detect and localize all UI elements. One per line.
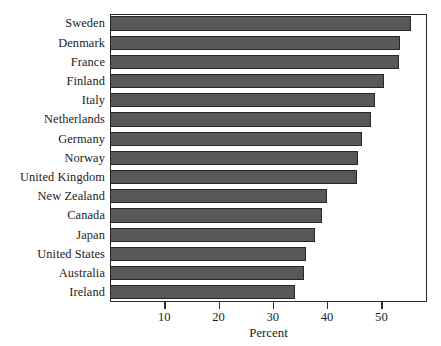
bar-france: [110, 55, 399, 69]
y-axis-label-netherlands: Netherlands: [0, 113, 105, 125]
y-axis-label-norway: Norway: [0, 152, 105, 164]
y-axis-label-sweden: Sweden: [0, 17, 105, 29]
x-tick-label-50: 50: [361, 310, 401, 324]
x-tick-label-40: 40: [307, 310, 347, 324]
y-axis-label-canada: Canada: [0, 209, 105, 221]
x-tick-20: [219, 302, 220, 309]
y-axis-label-finland: Finland: [0, 75, 105, 87]
x-tick-40: [327, 302, 328, 309]
bar-ireland: [110, 285, 295, 299]
bar-italy: [110, 93, 375, 107]
x-tick-label-20: 20: [199, 310, 239, 324]
bar-united-states: [110, 247, 306, 261]
x-tick-label-10: 10: [144, 310, 184, 324]
bar-norway: [110, 151, 358, 165]
bar-series: [110, 14, 427, 302]
y-axis-label-japan: Japan: [0, 229, 105, 241]
bar-canada: [110, 208, 322, 222]
bar-sweden: [110, 16, 411, 30]
y-axis-label-united-kingdom: United Kingdom: [0, 171, 105, 183]
bar-germany: [110, 132, 362, 146]
x-axis-title: Percent: [110, 326, 427, 340]
x-tick-10: [164, 302, 165, 309]
y-axis-label-australia: Australia: [0, 267, 105, 279]
x-tick-50: [381, 302, 382, 309]
y-axis-label-italy: Italy: [0, 94, 105, 106]
bar-finland: [110, 74, 384, 88]
y-axis-label-new-zealand: New Zealand: [0, 190, 105, 202]
bar-chart-figure: SwedenDenmarkFranceFinlandItalyNetherlan…: [0, 0, 441, 346]
bar-united-kingdom: [110, 170, 357, 184]
bar-australia: [110, 266, 304, 280]
y-axis-label-germany: Germany: [0, 133, 105, 145]
bar-japan: [110, 228, 315, 242]
y-axis-label-france: France: [0, 56, 105, 68]
bar-denmark: [110, 36, 400, 50]
y-axis-label-denmark: Denmark: [0, 37, 105, 49]
bar-netherlands: [110, 112, 371, 126]
x-tick-30: [273, 302, 274, 309]
y-axis-category-labels: SwedenDenmarkFranceFinlandItalyNetherlan…: [0, 14, 105, 302]
bar-new-zealand: [110, 189, 327, 203]
y-axis-label-united-states: United States: [0, 248, 105, 260]
y-axis-label-ireland: Ireland: [0, 286, 105, 298]
x-tick-label-30: 30: [253, 310, 293, 324]
